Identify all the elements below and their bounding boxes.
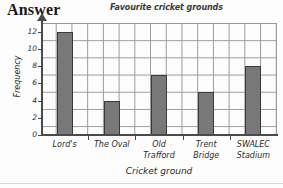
y-tick-mark-10 [38,49,42,50]
x-axis-title: Cricket ground [41,166,277,176]
y-tick-mark-8 [38,66,42,67]
x-category-label-4: SWALECStadium [227,140,280,161]
bar-3 [198,92,214,135]
chart-screenshot: Answer Favourite cricket grounds 0246810… [0,0,283,188]
y-tick-mark-2 [38,118,42,119]
x-category-label-1: The Oval [85,140,138,151]
chart-title: Favourite cricket grounds [110,3,280,12]
x-category-label-2: OldTrafford [132,140,185,161]
x-axis-line [41,134,278,136]
y-tick-mark-0 [38,135,42,136]
y-tick-label-2: 2 [18,113,37,122]
y-tick-label-0: 0 [18,130,37,139]
y-tick-mark-6 [38,83,42,84]
plot-area [41,23,277,135]
answer-heading: Answer [7,1,61,19]
bars-layer [41,24,276,135]
y-tick-label-12: 12 [18,27,37,36]
bar-4 [245,66,261,135]
y-tick-mark-12 [38,32,42,33]
x-category-label-3: TrentBridge [180,140,233,161]
bar-1 [104,101,120,135]
y-axis-title: Frequency [13,44,22,110]
y-tick-mark-4 [38,101,42,102]
bar-0 [57,32,73,135]
bar-2 [151,75,167,135]
x-category-label-0: Lord's [38,140,91,151]
bottom-divider [0,183,283,184]
